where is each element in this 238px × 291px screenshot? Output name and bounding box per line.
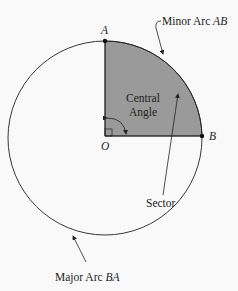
point-b [200, 134, 204, 138]
label-b: B [209, 130, 216, 142]
label-o: O [101, 140, 110, 152]
major-arc-leader [73, 236, 86, 262]
sector-label: Sector [146, 197, 176, 209]
central-angle-label-line2: Angle [129, 106, 157, 119]
circle-diagram: A B O Central Angle Minor Arc AB Sector … [0, 0, 238, 291]
label-a: A [100, 24, 109, 36]
point-a [103, 39, 107, 43]
major-arc-label: Major Arc BA [55, 271, 120, 284]
minor-arc-label: Minor Arc AB [162, 15, 227, 27]
central-angle-label-line1: Central [126, 92, 160, 104]
